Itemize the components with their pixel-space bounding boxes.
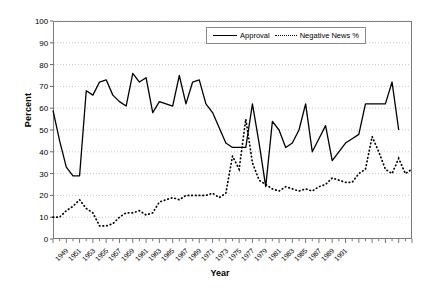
legend-item-negative-news: Negative News %	[275, 31, 359, 40]
y-tick-label: 40	[20, 147, 48, 156]
y-axis-title: Percent	[23, 80, 33, 140]
y-tick-label: 90	[20, 38, 48, 47]
x-axis-title: Year	[0, 268, 440, 278]
legend-item-approval: Approval	[213, 31, 270, 40]
solid-line-icon	[213, 35, 237, 36]
y-tick-label: 30	[20, 169, 48, 178]
y-tick-label: 20	[20, 191, 48, 200]
x-tick-marks	[53, 239, 412, 243]
y-tick-label: 10	[20, 213, 48, 222]
y-tick-label: 0	[20, 235, 48, 244]
y-tick-marks	[50, 21, 53, 239]
legend-label-negative-news: Negative News %	[300, 31, 359, 40]
dotted-line-icon	[275, 35, 297, 36]
y-tick-label: 100	[20, 17, 48, 26]
legend: Approval Negative News %	[206, 27, 366, 44]
y-tick-label: 80	[20, 60, 48, 69]
chart-container: 1009080706050403020100 19491951195319551…	[0, 0, 440, 290]
gridlines	[54, 21, 411, 217]
legend-label-approval: Approval	[240, 31, 270, 40]
